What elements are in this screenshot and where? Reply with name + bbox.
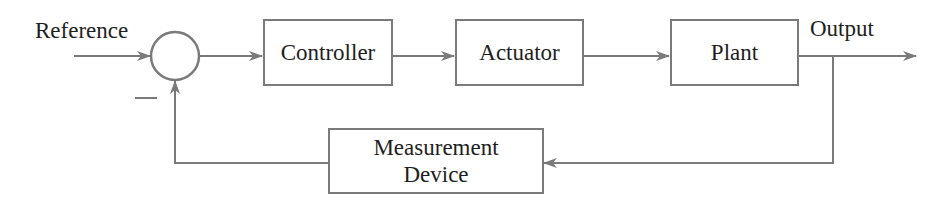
summing-junction xyxy=(151,32,199,80)
plant-label: Plant xyxy=(711,39,758,66)
controller-block: Controller xyxy=(263,19,393,86)
feedback-return-arrow xyxy=(175,81,328,163)
controller-label: Controller xyxy=(281,39,376,66)
measurement-label-line1: Measurement xyxy=(373,134,498,161)
plant-block: Plant xyxy=(670,19,799,86)
reference-label: Reference xyxy=(35,18,128,44)
actuator-block: Actuator xyxy=(455,19,584,86)
measurement-label-line2: Device xyxy=(403,161,468,188)
measurement-device-block: Measurement Device xyxy=(328,128,544,194)
actuator-label: Actuator xyxy=(479,39,559,66)
output-label: Output xyxy=(810,16,874,42)
